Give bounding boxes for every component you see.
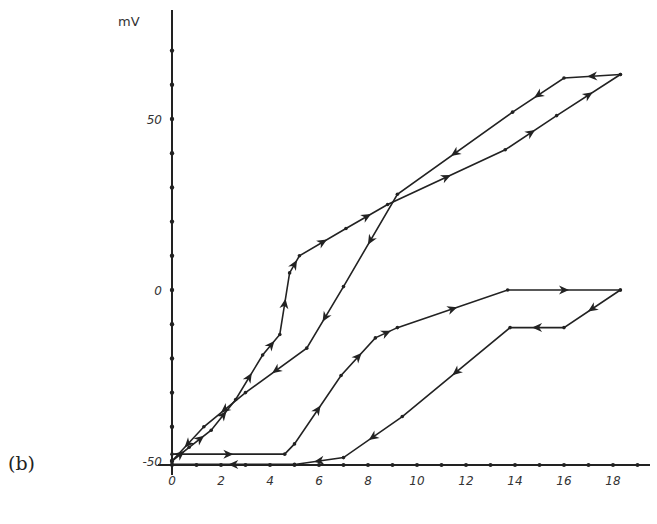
- x-tick: [538, 463, 542, 467]
- arrowhead-icon: [446, 303, 458, 315]
- y-tick-marks: -50050: [142, 48, 174, 469]
- y-tick-label: 0: [154, 284, 162, 298]
- data-point: [293, 442, 297, 446]
- data-point: [298, 254, 302, 258]
- x-tick-label: 14: [507, 474, 522, 488]
- data-point: [305, 346, 309, 350]
- x-tick: [415, 463, 419, 467]
- arrowhead-icon: [582, 89, 595, 102]
- x-tick: [342, 463, 346, 467]
- x-tick-label: 2: [217, 474, 225, 488]
- arrowhead-icon: [366, 431, 379, 444]
- arrowhead-icon: [532, 89, 545, 102]
- data-point: [288, 271, 292, 275]
- panel-label: (b): [8, 452, 35, 474]
- arrowhead-icon: [364, 234, 377, 247]
- arrowhead-icon: [311, 403, 324, 416]
- x-tick-marks: 024681012141618: [168, 463, 639, 488]
- arrowhead-icon: [319, 311, 332, 324]
- x-tick-label: 12: [458, 474, 473, 488]
- data-point: [562, 76, 566, 80]
- data-point: [342, 456, 346, 460]
- y-tick: [170, 425, 174, 429]
- data-point: [503, 148, 507, 152]
- data-point: [555, 114, 559, 118]
- data-point: [170, 452, 174, 456]
- arrowhead-icon: [360, 210, 373, 223]
- x-tick-label: 8: [364, 474, 372, 488]
- y-tick: [170, 322, 174, 326]
- data-point: [619, 73, 623, 77]
- series-line: [172, 290, 620, 464]
- data-point: [396, 192, 400, 196]
- x-tick: [317, 463, 321, 467]
- y-tick: [170, 254, 174, 258]
- arrowhead-icon: [448, 147, 461, 160]
- x-tick: [587, 463, 591, 467]
- y-tick: [170, 219, 174, 223]
- arrowhead-icon: [243, 371, 256, 384]
- y-axis-label: mV: [118, 14, 140, 29]
- arrowhead-icon: [586, 302, 599, 315]
- x-tick: [366, 463, 370, 467]
- x-tick: [489, 463, 493, 467]
- x-tick-label: 16: [556, 474, 572, 488]
- data-point: [386, 203, 390, 207]
- arrowhead-icon: [288, 258, 301, 271]
- arrowhead-icon: [440, 171, 453, 183]
- data-point: [562, 326, 566, 330]
- arrowhead-icon: [316, 236, 329, 249]
- x-tick-label: 10: [409, 474, 425, 488]
- data-point: [344, 227, 348, 231]
- x-tick: [391, 463, 395, 467]
- x-tick-label: 4: [266, 474, 274, 488]
- x-tick-label: 18: [605, 474, 621, 488]
- data-point: [170, 463, 174, 467]
- data-point: [261, 353, 265, 357]
- data-point: [342, 285, 346, 289]
- series-line: [172, 290, 620, 454]
- x-tick: [440, 463, 444, 467]
- y-tick: [170, 288, 174, 292]
- x-tick: [562, 463, 566, 467]
- y-tick: [170, 83, 174, 87]
- y-tick: [170, 48, 174, 52]
- data-series: [170, 71, 622, 468]
- x-tick: [513, 463, 517, 467]
- data-point: [202, 425, 206, 429]
- data-point: [244, 391, 248, 395]
- series-line: [172, 75, 620, 461]
- y-tick: [170, 356, 174, 360]
- data-point: [209, 428, 213, 432]
- y-tick: [170, 390, 174, 394]
- data-point: [401, 415, 405, 419]
- data-point: [396, 326, 400, 330]
- x-tick: [636, 463, 640, 467]
- x-tick-label: 0: [168, 474, 176, 488]
- data-point: [278, 333, 282, 337]
- data-point: [506, 288, 510, 292]
- y-tick: [170, 117, 174, 121]
- arrowhead-icon: [524, 126, 537, 139]
- data-point: [508, 326, 512, 330]
- y-tick-label: 50: [147, 113, 163, 127]
- x-tick-label: 6: [315, 474, 323, 488]
- y-tick-label: -50: [142, 455, 162, 469]
- series-line: [172, 75, 620, 461]
- arrowhead-icon: [269, 364, 282, 377]
- y-tick: [170, 185, 174, 189]
- y-tick: [170, 151, 174, 155]
- data-point: [293, 463, 297, 467]
- x-tick: [464, 463, 468, 467]
- data-point: [374, 336, 378, 340]
- data-point: [339, 374, 343, 378]
- hysteresis-chart: -50050 024681012141618 mV: [0, 0, 657, 524]
- data-point: [170, 459, 174, 463]
- arrowhead-icon: [380, 327, 393, 339]
- data-point: [283, 452, 287, 456]
- data-point: [511, 110, 515, 114]
- x-tick: [611, 463, 615, 467]
- data-point: [619, 288, 623, 292]
